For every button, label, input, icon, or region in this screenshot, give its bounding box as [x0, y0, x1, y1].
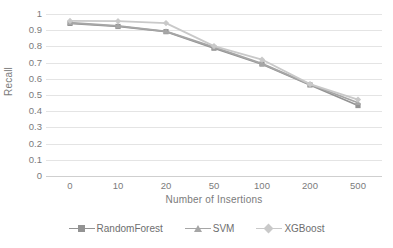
x-tick-label: 200: [290, 180, 330, 192]
y-tick-label: 0.3: [14, 122, 42, 132]
y-tick-label: 0.2: [14, 139, 42, 149]
x-axis-line: [46, 176, 382, 177]
plot-area: [46, 14, 382, 176]
series-line: [70, 23, 358, 103]
x-tick-label: 0: [50, 180, 90, 192]
legend-label: SVM: [213, 223, 235, 234]
legend-item-randomforest[interactable]: RandomForest: [69, 223, 163, 234]
chart-legend: RandomForestSVMXGBoost: [0, 220, 393, 236]
legend-label: XGBoost: [284, 223, 324, 234]
recall-vs-insertions-chart: Recall 10.90.80.70.60.50.40.30.20.10 010…: [0, 0, 393, 248]
series-lines: [46, 14, 382, 176]
y-tick-label: 1: [14, 9, 42, 19]
y-tick-label: 0.4: [14, 106, 42, 116]
x-axis-title: Number of Insertions: [46, 194, 382, 205]
y-tick-label: 0.1: [14, 155, 42, 165]
y-tick-label: 0.5: [14, 90, 42, 100]
series-xgboost: [67, 18, 361, 103]
y-tick-label: 0.6: [14, 74, 42, 84]
series-randomforest: [67, 21, 360, 108]
data-point-marker: [163, 20, 169, 26]
y-axis-title: Recall: [3, 52, 14, 112]
data-point-marker: [115, 18, 121, 24]
x-tick-label: 10: [98, 180, 138, 192]
y-tick-label: 0.7: [14, 58, 42, 68]
x-axis-tick-labels: 0102050100200500: [46, 180, 382, 194]
legend-label: RandomForest: [97, 223, 163, 234]
series-line: [70, 23, 358, 105]
legend-swatch-square-icon: [69, 223, 95, 234]
y-tick-label: 0: [14, 171, 42, 181]
y-tick-label: 0.8: [14, 41, 42, 51]
y-tick-label: 0.9: [14, 25, 42, 35]
legend-item-svm[interactable]: SVM: [185, 223, 235, 234]
legend-swatch-diamond-icon: [256, 223, 282, 234]
legend-item-xgboost[interactable]: XGBoost: [256, 223, 324, 234]
x-tick-label: 50: [194, 180, 234, 192]
legend-swatch-triangle-icon: [185, 223, 211, 234]
x-tick-label: 100: [242, 180, 282, 192]
x-tick-label: 20: [146, 180, 186, 192]
series-svm: [67, 20, 361, 105]
x-tick-label: 500: [338, 180, 378, 192]
y-axis-tick-labels: 10.90.80.70.60.50.40.30.20.10: [14, 9, 42, 181]
